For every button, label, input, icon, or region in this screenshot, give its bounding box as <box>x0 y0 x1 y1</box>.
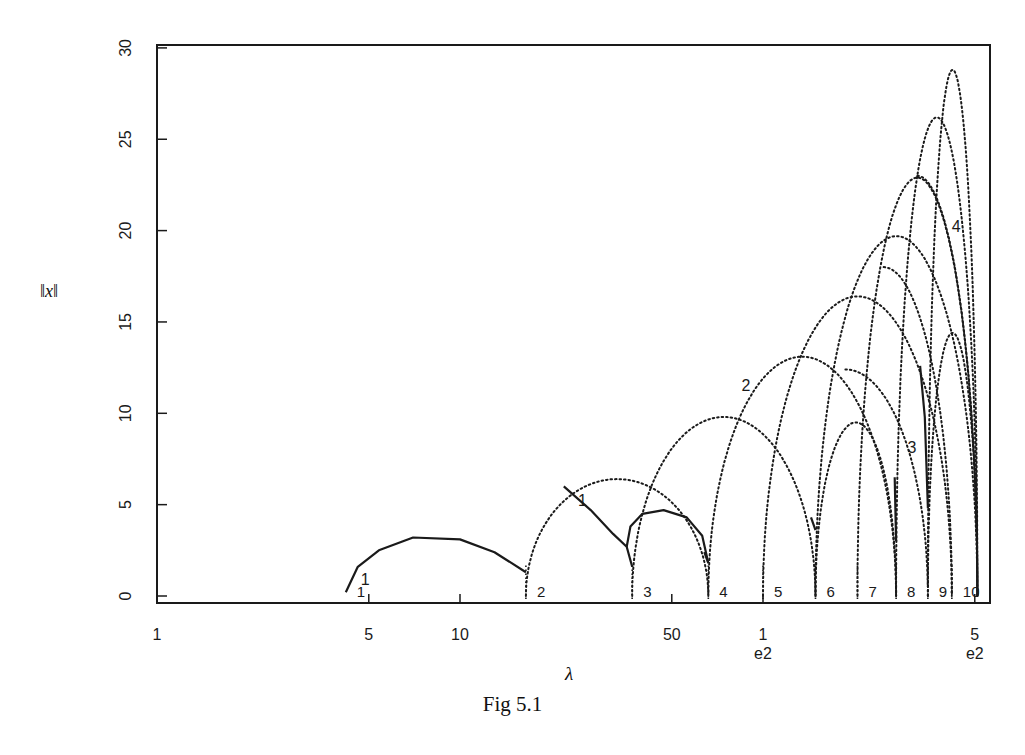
x-tick-label: 50 <box>663 626 681 643</box>
bifurcation-chart: 051015202530 1510501e25e2 12345678910 11… <box>0 0 1025 755</box>
x-tick-label: 10 <box>451 626 469 643</box>
eigenvalue-marker-label: 6 <box>826 583 834 600</box>
eigenvalue-marker-label: 9 <box>939 583 947 600</box>
dotted-arc <box>632 417 815 596</box>
plot-frame <box>157 45 990 603</box>
figure-caption: Fig 5.1 <box>0 692 1025 717</box>
branch-label: 4 <box>952 218 961 235</box>
branch-label: 1 <box>578 492 587 509</box>
solid-branch <box>346 538 526 593</box>
solid-branch <box>920 366 928 509</box>
y-tick-label: 20 <box>117 222 134 240</box>
branch-label: 2 <box>742 377 751 394</box>
dotted-arc <box>917 176 977 596</box>
x-tick-exponent: e2 <box>966 645 984 662</box>
plot-border <box>157 45 990 603</box>
x-axis: 1510501e25e2 <box>153 594 984 662</box>
eigenvalue-marker-label: 8 <box>907 583 915 600</box>
x-tick-label: 1 <box>759 626 768 643</box>
eigenvalue-markers: 12345678910 <box>357 563 980 600</box>
x-tick-label: 5 <box>970 626 979 643</box>
y-tick-label: 30 <box>117 39 134 57</box>
eigenvalue-marker-label: 4 <box>719 583 727 600</box>
eigenvalue-marker-label: 7 <box>868 583 876 600</box>
dotted-arc <box>708 357 896 596</box>
dotted-arc <box>858 178 978 596</box>
eigenvalue-marker-label: 5 <box>774 583 782 600</box>
y-tick-label: 25 <box>117 130 134 148</box>
y-axis: 051015202530 <box>117 39 167 601</box>
branch-label: 1 <box>361 571 370 588</box>
x-tick-exponent: e2 <box>754 645 772 662</box>
dotted-arc <box>816 422 897 596</box>
solid-branch <box>895 477 896 541</box>
eigenvalue-marker-label: 3 <box>643 583 651 600</box>
y-tick-label: 15 <box>117 313 134 331</box>
branch-label: 3 <box>908 439 917 456</box>
eigenvalue-marker-label: 2 <box>537 583 545 600</box>
dotted-branches <box>526 70 978 596</box>
x-tick-label: 5 <box>364 626 373 643</box>
solid-branch <box>564 486 632 566</box>
branch-labels: 11234 <box>361 218 961 588</box>
solid-branches <box>346 366 928 593</box>
y-tick-label: 10 <box>117 404 134 422</box>
y-tick-label: 0 <box>117 591 134 600</box>
x-axis-label: λ <box>565 663 573 685</box>
y-tick-label: 5 <box>117 500 134 509</box>
dotted-arc <box>928 333 978 596</box>
x-tick-label: 1 <box>153 626 162 643</box>
y-axis-label: ‖x‖ <box>40 281 58 302</box>
solid-branch <box>811 517 816 530</box>
